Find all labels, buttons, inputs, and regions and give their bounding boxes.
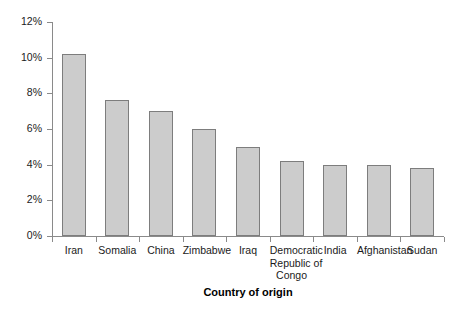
bar bbox=[192, 129, 216, 236]
bar bbox=[410, 168, 434, 236]
bar bbox=[149, 111, 173, 236]
x-axis-tick-mark bbox=[96, 237, 97, 242]
x-axis-category-label: Iraq bbox=[226, 244, 270, 257]
x-axis-tick-mark bbox=[139, 237, 140, 242]
bar bbox=[367, 165, 391, 236]
y-axis-tick-label: 4% bbox=[27, 158, 42, 171]
y-axis-tick-label: 2% bbox=[27, 193, 42, 206]
x-axis-category-label: Iran bbox=[52, 244, 96, 257]
x-axis-category-label: Afghanistan bbox=[357, 244, 401, 257]
x-axis-category-label: China bbox=[139, 244, 183, 257]
x-axis-tick-mark bbox=[400, 237, 401, 242]
x-axis-tick-mark bbox=[183, 237, 184, 242]
y-axis-tick-label: 12% bbox=[21, 15, 42, 28]
bar bbox=[323, 165, 347, 236]
bar bbox=[105, 100, 129, 236]
x-axis-tick-mark bbox=[313, 237, 314, 242]
y-axis-tick-label: 10% bbox=[21, 51, 42, 64]
x-axis-tick-mark bbox=[270, 237, 271, 242]
y-axis-tick-label: 8% bbox=[27, 86, 42, 99]
x-axis-tick-mark bbox=[444, 237, 445, 242]
x-axis-category-label: Zimbabwe bbox=[183, 244, 227, 257]
bar-chart: 0%2%4%6%8%10%12% IranSomaliaChinaZimbabw… bbox=[0, 0, 456, 311]
x-axis-line bbox=[52, 236, 444, 237]
y-axis-tick-label: 0% bbox=[27, 229, 42, 242]
x-axis-category-label: Somalia bbox=[96, 244, 140, 257]
x-axis-category-label: Sudan bbox=[400, 244, 444, 257]
x-axis-tick-mark bbox=[357, 237, 358, 242]
y-axis-tick-label: 6% bbox=[27, 122, 42, 135]
x-axis-category-label: DemocraticRepublic ofCongo bbox=[270, 244, 314, 282]
plot-area bbox=[52, 22, 444, 236]
x-axis-tick-mark bbox=[52, 237, 53, 242]
x-axis-tick-mark bbox=[226, 237, 227, 242]
bar bbox=[280, 161, 304, 236]
bar bbox=[236, 147, 260, 236]
x-axis-title: Country of origin bbox=[52, 286, 444, 298]
bar bbox=[62, 54, 86, 236]
x-axis-category-label: India bbox=[313, 244, 357, 257]
